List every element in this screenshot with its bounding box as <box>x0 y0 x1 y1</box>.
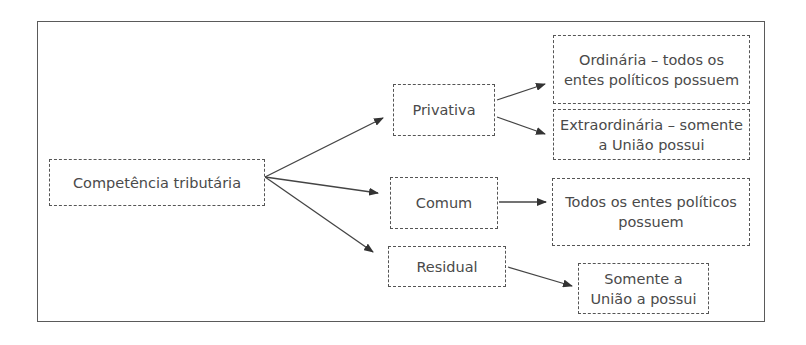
root-node-competencia-tributaria: Competência tributária <box>49 159 265 206</box>
category-label: Residual <box>416 257 477 277</box>
category-label: Comum <box>416 193 472 213</box>
arrow-root-to-comum <box>265 177 378 193</box>
arrow-residual-to-outcome <box>508 267 572 286</box>
root-label: Competência tributária <box>73 173 241 193</box>
category-node-privativa: Privativa <box>393 84 495 136</box>
outcome-line: Extraordinária – somente <box>560 115 743 135</box>
arrow-root-to-privativa <box>265 118 383 177</box>
outcome-line: Ordinária – todos os <box>579 50 724 70</box>
category-label: Privativa <box>412 100 475 120</box>
outcome-line: Todos os entes políticos <box>565 192 737 212</box>
outcome-node-ordinaria: Ordinária – todos os entes políticos pos… <box>553 35 750 104</box>
arrow-privativa-to-extraordinaria <box>497 117 545 134</box>
outcome-line: entes políticos possuem <box>564 70 739 90</box>
outcome-node-extraordinaria: Extraordinária – somente a União possui <box>553 109 750 160</box>
outcome-line: a União possui <box>598 135 704 155</box>
category-node-comum: Comum <box>390 177 498 229</box>
outcome-line: União a possui <box>590 289 696 309</box>
category-node-residual: Residual <box>388 246 506 287</box>
outcome-node-residual: Somente a União a possui <box>578 263 709 314</box>
arrow-privativa-to-ordinaria <box>497 84 545 100</box>
outcome-node-comum: Todos os entes políticos possuem <box>552 178 750 246</box>
outcome-line: Somente a <box>604 269 682 289</box>
arrow-root-to-residual <box>265 177 373 252</box>
outcome-line: possuem <box>618 212 683 232</box>
